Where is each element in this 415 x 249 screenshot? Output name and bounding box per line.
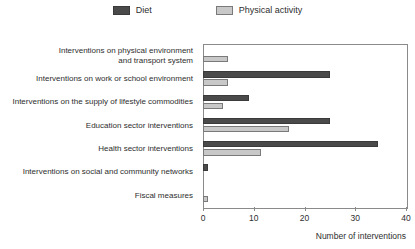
- bar-physical-activity: [203, 126, 289, 132]
- bar-chart: Diet Physical activity Interventions on …: [0, 0, 415, 249]
- bar-pair: [203, 44, 406, 67]
- bar-group: Fiscal measures: [0, 184, 406, 207]
- x-axis: 010203040: [203, 207, 406, 208]
- x-tick-label: 10: [249, 213, 258, 223]
- bar-physical-activity: [203, 56, 228, 62]
- bar-diet: [203, 95, 249, 101]
- bar-group: Interventions on the supply of lifestyle…: [0, 91, 406, 114]
- legend-label-diet: Diet: [136, 6, 152, 15]
- bar-pair: [203, 137, 406, 160]
- bar-diet: [203, 71, 330, 77]
- x-tick: [406, 207, 407, 211]
- bar-physical-activity: [203, 79, 228, 85]
- bar-pair: [203, 160, 406, 183]
- legend-item-diet: Diet: [113, 6, 152, 15]
- category-label: Interventions on social and community ne…: [0, 167, 198, 177]
- bar-physical-activity: [203, 103, 223, 109]
- bar-diet: [203, 141, 378, 147]
- legend-swatch-diet-icon: [113, 6, 130, 15]
- x-tick: [254, 207, 255, 211]
- bar-physical-activity: [203, 149, 261, 155]
- category-label: Interventions on work or school environm…: [0, 74, 198, 84]
- x-axis-title: Number of interventions: [316, 231, 406, 241]
- bar-pair: [203, 184, 406, 207]
- bar-pair: [203, 67, 406, 90]
- x-tick-label: 20: [300, 213, 309, 223]
- x-tick-label: 40: [401, 213, 410, 223]
- chart-legend: Diet Physical activity: [0, 6, 415, 15]
- bar-pair: [203, 114, 406, 137]
- x-tick-label: 30: [351, 213, 360, 223]
- category-label: Interventions on the supply of lifestyle…: [0, 97, 198, 107]
- bar-group: Education sector interventions: [0, 114, 406, 137]
- legend-label-physical-activity: Physical activity: [239, 6, 303, 15]
- bar-physical-activity: [203, 196, 208, 202]
- x-tick: [355, 207, 356, 211]
- bar-pair: [203, 91, 406, 114]
- legend-item-physical-activity: Physical activity: [216, 6, 303, 15]
- category-label: Health sector interventions: [0, 144, 198, 154]
- x-tick-label: 0: [201, 213, 206, 223]
- bar-diet: [203, 118, 330, 124]
- x-tick: [305, 207, 306, 211]
- category-label: Fiscal measures: [0, 191, 198, 201]
- category-label: Interventions on physical environment an…: [0, 46, 198, 65]
- legend-swatch-physical-activity-icon: [216, 6, 233, 15]
- bar-group: Health sector interventions: [0, 137, 406, 160]
- bar-diet: [203, 164, 208, 170]
- category-label: Education sector interventions: [0, 121, 198, 131]
- x-tick: [203, 207, 204, 211]
- bar-group: Interventions on social and community ne…: [0, 160, 406, 183]
- bar-group: Interventions on work or school environm…: [0, 67, 406, 90]
- bar-group: Interventions on physical environment an…: [0, 44, 406, 67]
- bar-rows: Interventions on physical environment an…: [0, 44, 406, 207]
